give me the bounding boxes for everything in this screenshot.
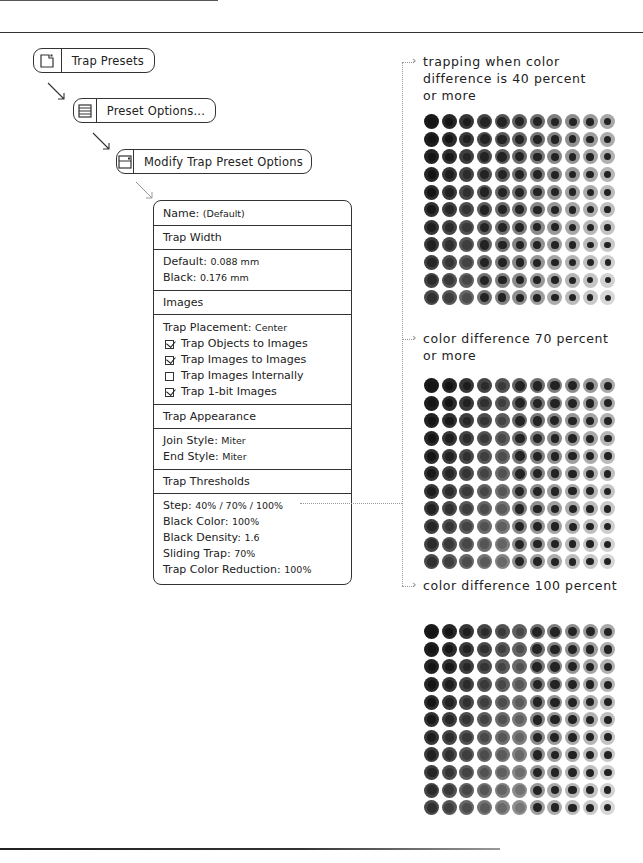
checkbox-trap-objects-to-images[interactable]: Trap Objects to Images bbox=[163, 336, 342, 352]
trap-sample-dot bbox=[441, 465, 459, 483]
trap-sample-dot bbox=[546, 535, 564, 553]
trap-sample-dot bbox=[581, 764, 599, 782]
join-style-value[interactable]: Miter bbox=[221, 435, 245, 446]
trap-sample-dot bbox=[581, 254, 599, 272]
trap-sample-dot bbox=[529, 219, 547, 237]
trap-sample-dot bbox=[529, 183, 547, 201]
sliding-trap-value[interactable]: 70% bbox=[234, 548, 255, 559]
trap-sample-dot bbox=[476, 166, 494, 184]
trap-sample-dot bbox=[546, 799, 564, 817]
trap-sample-dot bbox=[441, 518, 459, 536]
trap-sample-dot bbox=[546, 148, 564, 166]
trap-sample-dot bbox=[493, 641, 511, 659]
trap-sample-dot bbox=[511, 553, 529, 571]
trap-sample-dot bbox=[564, 412, 582, 430]
trap-sample-dot bbox=[511, 799, 529, 817]
trap-sample-dot bbox=[441, 412, 459, 430]
black-color-value[interactable]: 100% bbox=[232, 516, 259, 527]
trap-sample-dot bbox=[423, 711, 441, 729]
trap-sample-dot bbox=[564, 201, 582, 219]
trap-sample-dot bbox=[581, 623, 599, 641]
trap-sample-dot bbox=[476, 113, 494, 131]
trap-sample-dot bbox=[493, 271, 511, 289]
chevron-right-icon: › bbox=[412, 331, 416, 344]
trap-sample-dot bbox=[441, 377, 459, 395]
trap-sample-dot bbox=[564, 377, 582, 395]
trap-sample-dot bbox=[423, 676, 441, 694]
trap-sample-dot bbox=[493, 535, 511, 553]
trap-color-reduction-value[interactable]: 100% bbox=[284, 564, 311, 575]
checkbox-checked-icon[interactable] bbox=[165, 356, 174, 365]
trap-sample-dot bbox=[476, 746, 494, 764]
trap-sample-dot bbox=[476, 289, 494, 307]
trap-sample-dot bbox=[423, 377, 441, 395]
trap-sample-dot bbox=[564, 518, 582, 536]
trap-sample-dot bbox=[529, 236, 547, 254]
down-right-arrow-icon bbox=[91, 131, 113, 153]
trap-sample-dot bbox=[493, 219, 511, 237]
trap-sample-dot bbox=[564, 483, 582, 501]
checkbox-checked-icon[interactable] bbox=[165, 388, 174, 397]
trap-sample-dot bbox=[441, 236, 459, 254]
trap-sample-dot bbox=[423, 430, 441, 448]
checkbox-unchecked-icon[interactable] bbox=[165, 372, 174, 381]
checkbox-trap-images-to-images[interactable]: Trap Images to Images bbox=[163, 352, 342, 368]
trap-sample-dot bbox=[458, 641, 476, 659]
trap-sample-dot bbox=[529, 500, 547, 518]
trap-sample-dot bbox=[511, 764, 529, 782]
trap-sample-dot bbox=[441, 289, 459, 307]
trap-sample-dot bbox=[511, 183, 529, 201]
checkbox-checked-icon[interactable] bbox=[165, 340, 174, 349]
menu-modify-trap-preset-options[interactable]: Modify Trap Preset Options bbox=[116, 149, 312, 174]
trap-sample-dot bbox=[511, 711, 529, 729]
menu-trap-presets[interactable]: Trap Presets bbox=[33, 48, 155, 73]
trap-sample-dot bbox=[511, 254, 529, 272]
trap-sample-dot bbox=[493, 254, 511, 272]
trap-sample-dot bbox=[493, 483, 511, 501]
end-style-value[interactable]: Miter bbox=[222, 451, 246, 462]
trap-sample-dot bbox=[423, 553, 441, 571]
trap-sample-dot bbox=[564, 183, 582, 201]
trap-sample-dot bbox=[476, 799, 494, 817]
trap-color-reduction-label: Trap Color Reduction: bbox=[163, 563, 281, 576]
trap-appearance-header: Trap Appearance bbox=[154, 405, 351, 429]
trap-sample-dot bbox=[476, 535, 494, 553]
trap-sample-dot bbox=[458, 623, 476, 641]
trap-sample-dot bbox=[529, 271, 547, 289]
trap-sample-dot bbox=[511, 535, 529, 553]
trap-sample-dot bbox=[529, 131, 547, 149]
step-value[interactable]: 40% / 70% / 100% bbox=[195, 500, 283, 511]
trap-sample-dot bbox=[529, 483, 547, 501]
trap-sample-dot bbox=[529, 676, 547, 694]
trap-sample-dot bbox=[529, 799, 547, 817]
black-density-value[interactable]: 1.6 bbox=[244, 532, 259, 543]
trap-sample-dot bbox=[599, 465, 617, 483]
trap-placement-value[interactable]: Center bbox=[255, 322, 287, 333]
trap-sample-dot bbox=[581, 535, 599, 553]
checkbox-trap-1-bit-images[interactable]: Trap 1-bit Images bbox=[163, 384, 342, 400]
trap-sample-dot bbox=[458, 711, 476, 729]
trap-sample-dot bbox=[441, 781, 459, 799]
trap-sample-dot bbox=[546, 553, 564, 571]
trap-sample-dot bbox=[581, 746, 599, 764]
checkbox-trap-images-internally[interactable]: Trap Images Internally bbox=[163, 368, 342, 384]
menu-preset-options[interactable]: Preset Options... bbox=[73, 98, 216, 123]
trap-sample-dot bbox=[441, 764, 459, 782]
trap-sample-dot bbox=[546, 746, 564, 764]
trap-sample-dot bbox=[441, 641, 459, 659]
window-icon bbox=[117, 150, 134, 173]
join-style-label: Join Style: bbox=[163, 434, 218, 447]
trap-sample-dot bbox=[493, 658, 511, 676]
trap-sample-dot bbox=[458, 395, 476, 413]
trap-sample-dot bbox=[564, 236, 582, 254]
trap-sample-dot bbox=[511, 148, 529, 166]
list-icon bbox=[74, 99, 97, 122]
name-label: Name: bbox=[163, 207, 199, 220]
trap-sample-dot bbox=[511, 658, 529, 676]
trap-sample-dot bbox=[458, 658, 476, 676]
trap-sample-dot bbox=[423, 113, 441, 131]
black-color-label: Black Color: bbox=[163, 515, 229, 528]
trap-sample-dot bbox=[476, 483, 494, 501]
trap-sample-dot bbox=[529, 553, 547, 571]
trap-sample-dot bbox=[599, 183, 617, 201]
